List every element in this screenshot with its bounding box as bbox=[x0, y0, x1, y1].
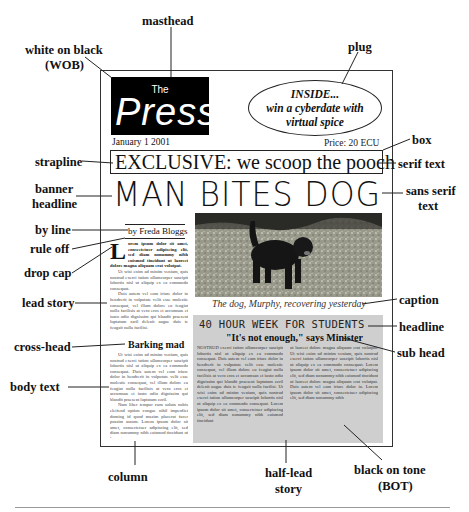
bottom-divider bbox=[15, 507, 450, 508]
leader-lines bbox=[0, 0, 469, 512]
